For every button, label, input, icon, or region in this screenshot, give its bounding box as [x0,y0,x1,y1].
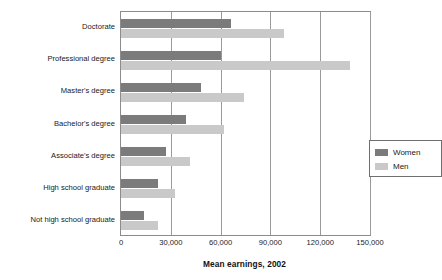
bars-layer [121,12,370,235]
legend-label: Women [393,148,420,157]
bar-group [121,51,370,70]
legend-swatch [375,163,388,170]
bar-group [121,83,370,102]
bar-men [121,157,190,166]
category-label: Associate's degree [0,151,115,160]
category-label: Not high school graduate [0,215,115,224]
tick-label: 30,000 [159,238,182,248]
bar-group [121,211,370,230]
bar-women [121,83,201,92]
category-label: Professional degree [0,54,115,63]
chart-legend: WomenMen [369,140,442,177]
bar-group [121,179,370,198]
legend-swatch [375,149,388,156]
legend-item: Men [375,159,441,173]
bar-men [121,125,224,134]
category-label: Bachelor's degree [0,119,115,128]
axis-title-label: Mean earnings, 2002 [203,259,286,269]
bar-women [121,115,186,124]
tick-label: 150,000 [356,238,383,248]
plot-area: WomenMen [120,11,371,236]
bar-women [121,211,144,220]
bar-women [121,179,158,188]
axis-title: Mean earnings, 2002 [0,259,387,269]
tick-label: 120,000 [306,238,333,248]
category-label: High school graduate [0,183,115,192]
bar-men [121,93,244,102]
bar-group [121,19,370,38]
gridline [370,12,371,235]
bar-men [121,61,350,70]
legend-label: Men [393,162,409,171]
category-label: Master's degree [0,86,115,95]
bar-women [121,147,166,156]
bar-group [121,147,370,166]
bar-women [121,51,221,60]
category-label: Doctorate [0,22,115,31]
bar-group [121,115,370,134]
category-axis: DoctorateProfessional degreeMaster's deg… [0,11,115,236]
bar-men [121,29,284,38]
tick-label: 60,000 [209,238,232,248]
bar-men [121,221,158,230]
tick-label: 90,000 [259,238,282,248]
bar-men [121,189,175,198]
value-axis: 030,00060,00090,000120,000150,000 [120,238,371,250]
tick-label: 0 [119,238,123,248]
bar-women [121,19,231,28]
legend-item: Women [375,145,441,159]
